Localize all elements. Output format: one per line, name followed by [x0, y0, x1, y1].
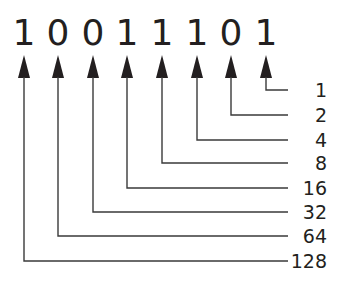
- arrow-up-icon: [52, 55, 64, 78]
- connector-32: [93, 77, 288, 212]
- arrow-up-icon: [156, 55, 168, 78]
- place-label-4: 4: [315, 129, 327, 151]
- place-label-8: 8: [315, 152, 327, 174]
- binary-place-value-diagram: 1 0 0 1 1 1 0 1 1 2 4 8 16 32 64: [0, 0, 343, 281]
- place-value-labels: 1 2 4 8 16 32 64 128: [291, 79, 327, 272]
- arrow-up-icon: [225, 55, 237, 78]
- bit-digit-128: 1: [13, 12, 36, 53]
- place-label-128: 128: [291, 250, 327, 272]
- bit-digit-32: 0: [82, 12, 105, 53]
- bit-digit-4: 1: [186, 12, 209, 53]
- arrow-up-icon: [260, 55, 272, 78]
- bit-digit-16: 1: [116, 12, 139, 53]
- connector-4: [197, 77, 288, 140]
- place-label-32: 32: [303, 201, 327, 223]
- place-label-16: 16: [303, 177, 327, 199]
- arrow-up-icon: [191, 55, 203, 78]
- bit-digit-8: 1: [151, 12, 174, 53]
- place-label-64: 64: [303, 225, 327, 247]
- bit-digit-64: 0: [47, 12, 70, 53]
- binary-digits: 1 0 0 1 1 1 0 1: [13, 12, 278, 53]
- arrow-up-icon: [121, 55, 133, 78]
- connectors: [24, 77, 288, 261]
- arrowheads: [18, 55, 272, 78]
- connector-2: [231, 77, 288, 115]
- bit-digit-1: 1: [255, 12, 278, 53]
- place-label-1: 1: [315, 79, 327, 101]
- connector-16: [127, 77, 288, 188]
- connector-1: [266, 77, 288, 90]
- bit-digit-2: 0: [220, 12, 243, 53]
- arrow-up-icon: [87, 55, 99, 78]
- arrow-up-icon: [18, 55, 30, 78]
- place-label-2: 2: [315, 104, 327, 126]
- connector-128: [24, 77, 288, 261]
